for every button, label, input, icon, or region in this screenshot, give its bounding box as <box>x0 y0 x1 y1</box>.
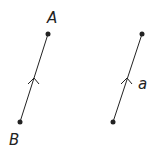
label-b-point: B <box>9 133 19 148</box>
vector-ba <box>20 34 48 122</box>
point-a <box>46 32 51 37</box>
vector-a-start <box>111 120 116 125</box>
label-vector-a: a <box>138 77 147 92</box>
label-a-point: A <box>47 11 57 26</box>
point-b <box>18 120 23 125</box>
vector-a-end <box>140 32 145 37</box>
vector-diagram <box>0 0 154 154</box>
